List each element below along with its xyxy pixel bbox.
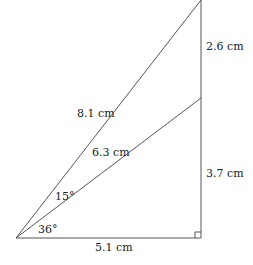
label-outer-hypotenuse: 8.1 cm xyxy=(77,107,115,120)
label-base: 5.1 cm xyxy=(95,241,133,254)
triangle-diagram: 8.1 cm 6.3 cm 5.1 cm 2.6 cm 3.7 cm 15° 3… xyxy=(0,0,253,265)
label-vertical-upper: 2.6 cm xyxy=(206,40,244,53)
label-inner-hypotenuse: 6.3 cm xyxy=(92,146,130,159)
right-angle-marker xyxy=(195,232,201,238)
label-vertical-lower: 3.7 cm xyxy=(206,167,244,180)
label-angle-lower: 36° xyxy=(38,223,58,236)
label-angle-upper: 15° xyxy=(55,190,75,203)
